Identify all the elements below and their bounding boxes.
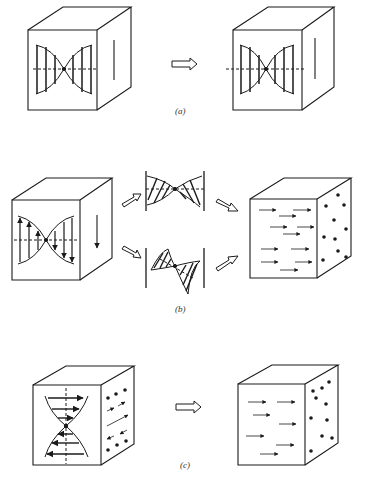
panel-label-c: (c)	[180, 460, 190, 470]
transform-arrow-a	[172, 58, 197, 70]
arrow-field-b	[259, 210, 314, 270]
wave-profile-b-left	[14, 216, 78, 264]
panel-label-b: (b)	[175, 304, 186, 314]
arrow-field-c	[246, 402, 296, 454]
cube-b-left	[12, 178, 112, 280]
transform-arrow-c	[176, 401, 201, 413]
dot-field-c	[309, 380, 334, 453]
combine-arrow-upper	[216, 199, 238, 211]
wave-profile-a-right	[226, 45, 306, 94]
panel-c	[33, 365, 338, 465]
panel-a	[28, 7, 334, 110]
dot-field-b	[321, 193, 348, 262]
panel-b	[12, 171, 351, 294]
combine-arrow-lower	[216, 256, 238, 271]
side-field-c-left	[106, 388, 128, 452]
wave-profile-b-upper	[146, 171, 204, 211]
panel-label-a: (a)	[175, 106, 186, 116]
wave-profile-c-left	[45, 388, 88, 464]
cube-a-left	[28, 7, 131, 110]
cube-c-left	[33, 366, 134, 465]
split-arrow-lower	[122, 246, 141, 258]
cube-b-right	[250, 178, 351, 278]
diagram-canvas	[0, 0, 389, 477]
split-arrow-upper	[122, 194, 141, 207]
wave-profile-a-left	[33, 45, 96, 94]
wave-profile-b-lower	[146, 248, 204, 294]
